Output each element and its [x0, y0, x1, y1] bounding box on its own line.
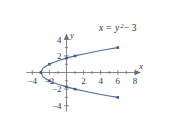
axis-names-group: xy: [69, 30, 143, 71]
equation-lhs: x: [98, 23, 104, 33]
equation-base: y: [114, 23, 120, 33]
data-point: [117, 96, 120, 99]
data-point: [74, 55, 77, 58]
x-tick-label: −4: [28, 76, 38, 86]
data-point: [65, 57, 68, 60]
x-axis-label: x: [138, 61, 143, 71]
data-point: [48, 63, 51, 66]
data-point: [40, 71, 43, 74]
equation-label-group: x=y2− 3: [98, 22, 137, 34]
x-tick-label: 4: [98, 76, 103, 86]
data-point: [48, 80, 51, 83]
equation-tail: − 3: [124, 23, 137, 33]
x-tick-label: 2: [81, 76, 86, 86]
data-point: [117, 46, 120, 49]
y-tick-label: −2: [52, 84, 62, 94]
data-point: [65, 86, 68, 89]
y-tick-label: −4: [52, 101, 62, 111]
y-axis-label: y: [69, 30, 74, 40]
x-tick-label: 6: [116, 76, 121, 86]
y-axis-arrowhead: [64, 33, 69, 39]
data-point: [74, 88, 77, 91]
plot-canvas: −4−2246842−2−4 xy x=y2− 3: [0, 0, 179, 128]
x-tick-label: 8: [133, 76, 138, 86]
y-tick-label: 4: [57, 35, 62, 45]
equation-equals: =: [106, 23, 111, 33]
parabola-figure: −4−2246842−2−4 xy x=y2− 3: [0, 0, 179, 128]
